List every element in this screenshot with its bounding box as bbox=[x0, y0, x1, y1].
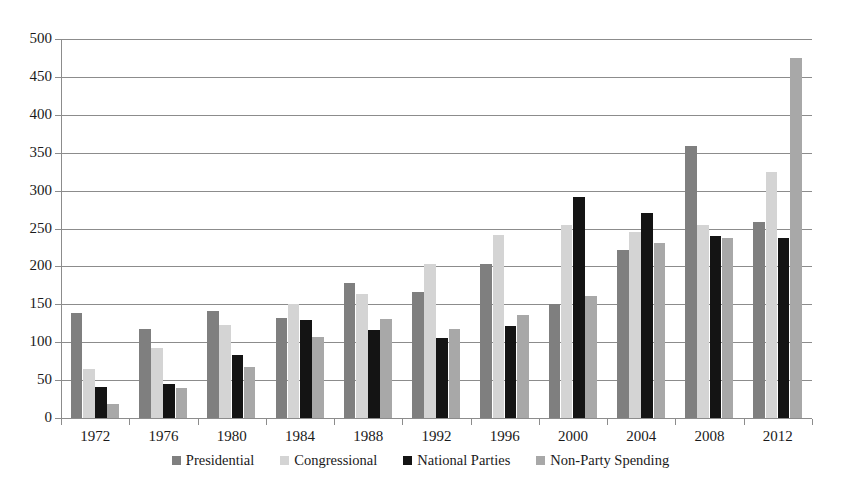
x-tick-label: 1972 bbox=[61, 428, 129, 445]
bar-chart: 500450400350300250200150100500 197219761… bbox=[0, 0, 841, 503]
bar[interactable] bbox=[163, 384, 175, 418]
x-tick-label: 2000 bbox=[539, 428, 607, 445]
legend-item[interactable]: Presidential bbox=[172, 452, 254, 468]
y-tick-label: 150 bbox=[6, 296, 52, 311]
x-tick-mark bbox=[129, 419, 130, 425]
x-tick-label: 1996 bbox=[471, 428, 539, 445]
bar[interactable] bbox=[139, 329, 151, 418]
legend-label: Congressional bbox=[294, 452, 377, 468]
y-tick-label: 200 bbox=[6, 258, 52, 273]
bar[interactable] bbox=[312, 337, 324, 418]
x-tick-mark bbox=[61, 419, 62, 425]
bar[interactable] bbox=[71, 313, 83, 418]
bar[interactable] bbox=[356, 294, 368, 418]
bar[interactable] bbox=[641, 213, 653, 418]
bar[interactable] bbox=[219, 325, 231, 418]
bar[interactable] bbox=[629, 232, 641, 418]
x-tick-label: 2008 bbox=[675, 428, 743, 445]
legend-label: Non-Party Spending bbox=[550, 452, 669, 468]
bar[interactable] bbox=[151, 348, 163, 418]
bar[interactable] bbox=[517, 315, 529, 418]
x-tick-mark bbox=[471, 419, 472, 425]
legend-label: Presidential bbox=[186, 452, 254, 468]
x-tick-label: 1980 bbox=[198, 428, 266, 445]
legend-item[interactable]: Non-Party Spending bbox=[536, 452, 669, 468]
bar[interactable] bbox=[107, 404, 119, 418]
bar[interactable] bbox=[480, 264, 492, 418]
x-tick-label: 1976 bbox=[129, 428, 197, 445]
bar[interactable] bbox=[300, 320, 312, 418]
bar[interactable] bbox=[436, 338, 448, 418]
legend-item[interactable]: Congressional bbox=[280, 452, 377, 468]
legend-label: National Parties bbox=[417, 452, 510, 468]
plot-area bbox=[61, 39, 812, 418]
bar[interactable] bbox=[493, 235, 505, 418]
y-tick-label: 400 bbox=[6, 107, 52, 122]
bar-group bbox=[617, 39, 666, 418]
x-tick-mark bbox=[744, 419, 745, 425]
bar-group bbox=[207, 39, 256, 418]
bar[interactable] bbox=[424, 264, 436, 418]
chart-legend: PresidentialCongressionalNational Partie… bbox=[0, 452, 841, 468]
y-tick-label: 250 bbox=[6, 221, 52, 236]
bar[interactable] bbox=[654, 243, 666, 418]
bar[interactable] bbox=[710, 236, 722, 418]
x-tick-label: 1992 bbox=[402, 428, 470, 445]
bar[interactable] bbox=[207, 311, 219, 418]
bar[interactable] bbox=[549, 304, 561, 418]
bar-group bbox=[549, 39, 598, 418]
bar[interactable] bbox=[232, 355, 244, 418]
legend-item[interactable]: National Parties bbox=[403, 452, 510, 468]
bar-group bbox=[753, 39, 802, 418]
x-tick-mark bbox=[607, 419, 608, 425]
y-tick-label: 100 bbox=[6, 334, 52, 349]
y-tick-label: 500 bbox=[6, 31, 52, 46]
bar[interactable] bbox=[244, 367, 256, 418]
bar[interactable] bbox=[561, 225, 573, 418]
bar[interactable] bbox=[685, 146, 697, 418]
bar[interactable] bbox=[412, 292, 424, 418]
bar[interactable] bbox=[778, 238, 790, 418]
bar-group bbox=[71, 39, 120, 418]
bar[interactable] bbox=[380, 319, 392, 418]
bar[interactable] bbox=[83, 369, 95, 418]
bar[interactable] bbox=[276, 318, 288, 418]
x-tick-label: 2004 bbox=[607, 428, 675, 445]
bar[interactable] bbox=[368, 330, 380, 418]
bar[interactable] bbox=[697, 225, 709, 418]
y-tick-label: 350 bbox=[6, 145, 52, 160]
legend-swatch-icon bbox=[280, 456, 289, 465]
bar[interactable] bbox=[449, 329, 461, 418]
x-tick-mark bbox=[334, 419, 335, 425]
bar[interactable] bbox=[95, 387, 107, 418]
bar[interactable] bbox=[505, 326, 517, 418]
x-tick-mark bbox=[812, 419, 813, 425]
bar[interactable] bbox=[344, 283, 356, 418]
x-tick-mark bbox=[539, 419, 540, 425]
x-tick-mark bbox=[402, 419, 403, 425]
legend-swatch-icon bbox=[403, 456, 412, 465]
x-tick-mark bbox=[266, 419, 267, 425]
bar[interactable] bbox=[288, 304, 300, 418]
bar-group bbox=[480, 39, 529, 418]
bar[interactable] bbox=[722, 238, 734, 418]
x-tick-label: 1988 bbox=[334, 428, 402, 445]
bar-group bbox=[344, 39, 393, 418]
bar[interactable] bbox=[617, 250, 629, 418]
bar[interactable] bbox=[176, 388, 188, 418]
bar[interactable] bbox=[573, 197, 585, 418]
bar-group bbox=[685, 39, 734, 418]
bar-group bbox=[276, 39, 325, 418]
y-tick-label: 300 bbox=[6, 183, 52, 198]
gridline bbox=[61, 418, 812, 419]
bar[interactable] bbox=[753, 222, 765, 418]
bar[interactable] bbox=[766, 172, 778, 418]
x-tick-label: 1984 bbox=[266, 428, 334, 445]
x-tick-label: 2012 bbox=[744, 428, 812, 445]
y-tick-label: 50 bbox=[6, 372, 52, 387]
y-axis-tick-labels: 500450400350300250200150100500 bbox=[0, 0, 52, 503]
bar[interactable] bbox=[585, 296, 597, 418]
bar-group bbox=[412, 39, 461, 418]
y-tick-label: 0 bbox=[6, 410, 52, 425]
bar[interactable] bbox=[790, 58, 802, 418]
